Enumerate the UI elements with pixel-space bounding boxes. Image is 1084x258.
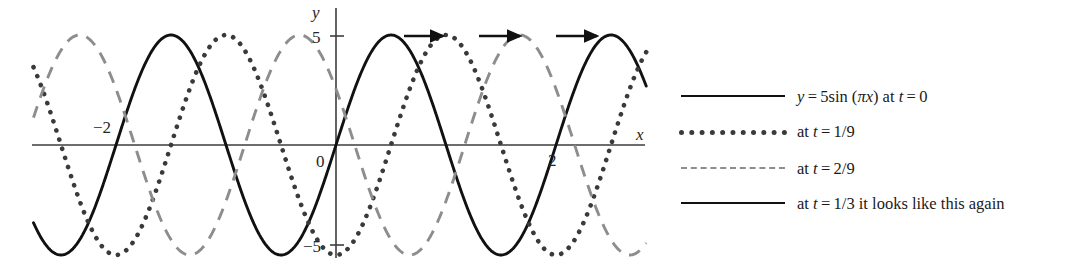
y-axis-label: y	[310, 3, 320, 22]
legend-swatch-dashed	[681, 167, 785, 169]
legend-swatch-solid	[681, 95, 785, 97]
legend-label-2: at t = 1/9	[797, 124, 855, 141]
tick-label-y-5: 5	[312, 28, 321, 47]
legend-swatch-solid	[681, 202, 785, 204]
legend-label-4: at t = 1/3 it looks like this again	[797, 196, 1005, 213]
wave-snapshots-figure: y x −2 2 5 −5 0 y = 5sin (πx) at t = 0at…	[0, 0, 1084, 258]
x-axis-label: x	[635, 125, 644, 144]
legend-label-3: at t = 2/9	[797, 161, 855, 178]
tick-label-y-negative-5: −5	[303, 237, 321, 256]
legend-swatch-dotted	[679, 130, 787, 135]
plot-area: y x −2 2 5 −5 0	[0, 0, 1084, 258]
legend-label-1: y = 5sin (πx) at t = 0	[797, 89, 927, 106]
tick-label-x-negative-2: −2	[93, 118, 111, 137]
origin-label: 0	[316, 152, 325, 171]
tick-label-x-2: 2	[548, 151, 557, 170]
